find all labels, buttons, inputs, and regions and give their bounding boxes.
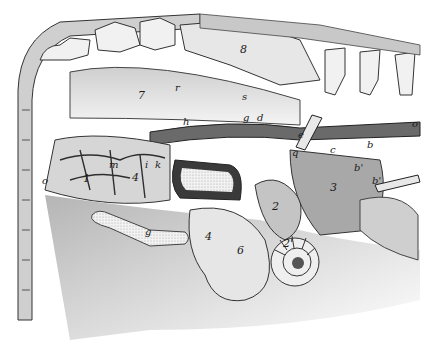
- label-h: h: [183, 117, 189, 127]
- label-e: e: [298, 130, 304, 140]
- label-c: c: [330, 145, 336, 155]
- label-4a: 4: [132, 172, 139, 183]
- label-1: 1: [83, 173, 90, 184]
- mesentery-region: [45, 136, 170, 203]
- label-4b: 4: [205, 231, 212, 242]
- label-2: 2: [272, 201, 279, 212]
- label-q: q: [292, 148, 298, 158]
- label-s: s: [242, 92, 247, 102]
- label-7: 7: [138, 90, 145, 101]
- label-r: r: [175, 83, 180, 93]
- label-o-left: o: [42, 176, 48, 186]
- label-d: d: [257, 113, 263, 123]
- label-8: 8: [240, 44, 247, 55]
- label-b: b: [367, 140, 373, 150]
- label-m: m: [109, 160, 118, 170]
- anatomical-illustration: [0, 0, 431, 354]
- label-b-prime-2: b': [372, 176, 381, 186]
- bone-cross-section: [172, 160, 241, 200]
- label-g-lower: g: [145, 227, 151, 237]
- label-o-right: o: [412, 119, 418, 129]
- label-3: 3: [330, 182, 337, 193]
- label-6: 6: [237, 245, 244, 256]
- label-2-prime: 2': [283, 238, 293, 249]
- label-i: i: [145, 160, 148, 170]
- label-b-prime-1: b': [354, 163, 363, 173]
- main-vessel: [150, 122, 420, 145]
- label-g: g: [243, 113, 249, 123]
- label-k: k: [155, 160, 161, 170]
